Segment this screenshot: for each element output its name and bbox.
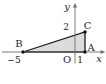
origin-label: O bbox=[63, 54, 71, 65]
x-axis-label: x bbox=[96, 53, 102, 64]
x-tick-1: 1 bbox=[77, 55, 83, 65]
point-b-label: B bbox=[15, 38, 22, 49]
y-axis-label: y bbox=[63, 1, 70, 12]
y-tick-2: 2 bbox=[63, 22, 69, 32]
point-a-label: A bbox=[86, 42, 95, 53]
y-axis-arrow-icon bbox=[73, 3, 77, 8]
triangle-diagram: y x B A C O −5 1 2 bbox=[0, 0, 106, 84]
point-c-label: C bbox=[84, 20, 92, 31]
point-b-dot bbox=[21, 50, 24, 53]
figure-canvas: y x B A C O −5 1 2 bbox=[0, 0, 106, 84]
triangle-bac bbox=[23, 32, 85, 52]
x-tick-minus5: −5 bbox=[7, 55, 21, 65]
point-a-dot bbox=[83, 50, 86, 53]
point-c-dot bbox=[83, 30, 86, 33]
